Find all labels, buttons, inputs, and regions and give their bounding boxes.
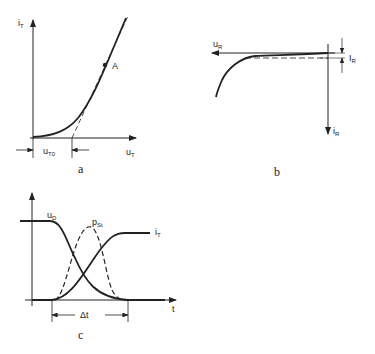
panel-c: uD pSt iT t Δt c	[20, 193, 176, 342]
panel-c-power-label: pSt	[92, 217, 103, 228]
diagram-canvas: A iT uT uT0 a IR uR iR b uD pSt iT t	[0, 0, 375, 354]
panel-c-caption: c	[78, 328, 83, 342]
panel-a-x-label: uT	[126, 147, 135, 158]
panel-c-voltage-label: uD	[47, 210, 57, 221]
panel-b-caption: b	[274, 165, 280, 179]
panel-a-threshold-label: uT0	[43, 146, 56, 157]
panel-a-y-label: iT	[18, 18, 24, 29]
panel-b: IR uR iR b	[212, 38, 357, 179]
panel-c-current-curve	[32, 233, 150, 300]
panel-a-point-label: A	[112, 61, 118, 71]
panel-b-leakage-label: IR	[349, 53, 357, 64]
panel-a-caption: a	[78, 162, 84, 176]
panel-c-current-label: iT	[155, 227, 161, 238]
panel-c-time-label: t	[172, 304, 175, 314]
panel-a: A iT uT uT0 a	[16, 16, 136, 176]
panel-a-point-a	[103, 63, 107, 67]
panel-a-characteristic-curve	[33, 18, 126, 137]
panel-c-interval-label: Δt	[80, 310, 89, 320]
panel-b-x-label: uR	[213, 39, 223, 50]
panel-b-reverse-curve	[216, 53, 328, 97]
panel-a-tangent-line	[72, 16, 128, 138]
panel-b-y-label: iR	[333, 126, 340, 137]
